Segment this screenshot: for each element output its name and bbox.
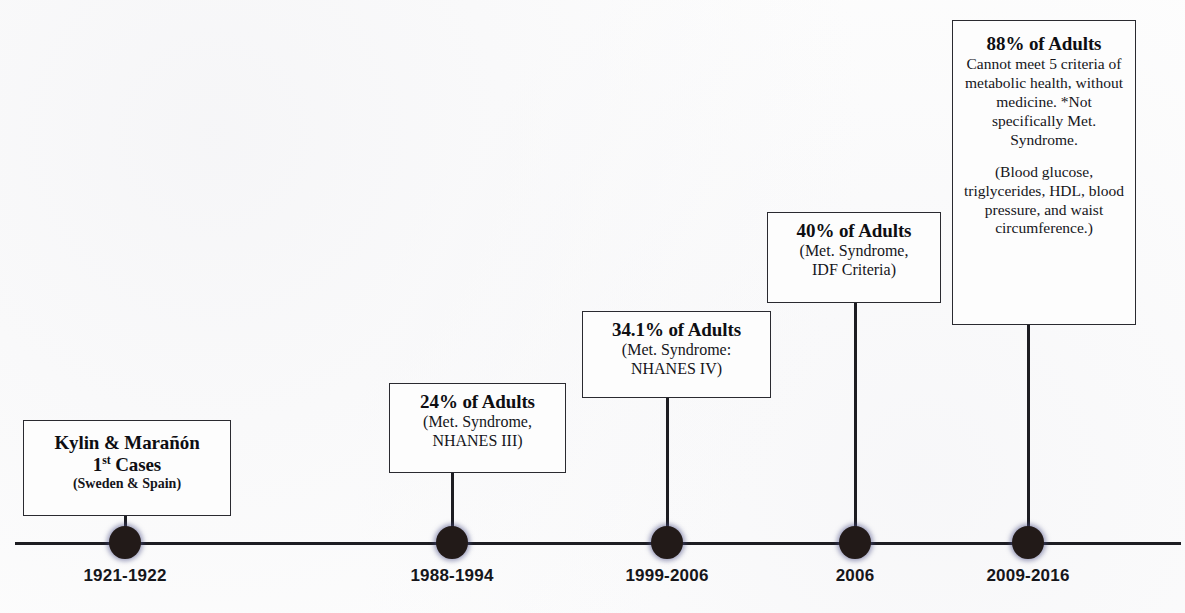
event-4-sub-line2: IDF Criteria) [774, 261, 934, 280]
event-3-sub-line1: (Met. Syndrome: [589, 341, 764, 360]
timeline-figure: 1921-1922 1988-1994 1999-2006 2006 2009-… [0, 0, 1185, 613]
event-1-ordinal-number: 1 [93, 454, 102, 475]
event-1-ordinal-suffix: st [102, 454, 110, 467]
event-5-spacer [959, 150, 1129, 163]
timeline-node-event-4[interactable] [839, 526, 871, 559]
year-label-event-5: 2009-2016 [986, 566, 1069, 586]
timeline-axis [15, 542, 1181, 545]
event-1-headline: Kylin & Marañón [30, 432, 224, 454]
stem-event-4 [854, 303, 857, 543]
event-5-headline: 88% of Adults [959, 33, 1129, 55]
event-2-sub-line2: NHANES III) [396, 432, 559, 451]
event-1-cases-word: Cases [111, 454, 162, 475]
event-2-headline: 24% of Adults [396, 391, 559, 413]
event-3-sub-line2: NHANES IV) [589, 360, 764, 379]
year-label-event-1: 1921-1922 [83, 566, 166, 586]
year-label-event-4: 2006 [836, 566, 875, 586]
timeline-node-event-1[interactable] [109, 526, 141, 559]
event-5-body-2: (Blood glucose, triglycerides, HDL, bloo… [959, 163, 1129, 239]
event-2-sub-line1: (Met. Syndrome, [396, 413, 559, 432]
event-5-body: Cannot meet 5 criteria of metabolic heal… [959, 55, 1129, 150]
event-4-sub-line1: (Met. Syndrome, [774, 242, 934, 261]
timeline-node-event-5[interactable] [1012, 526, 1044, 559]
timeline-node-event-2[interactable] [436, 526, 468, 559]
event-1-sub: (Sweden & Spain) [30, 476, 224, 492]
event-box-2006[interactable]: 40% of Adults (Met. Syndrome, IDF Criter… [767, 212, 941, 303]
event-box-1921-1922[interactable]: Kylin & Marañón 1st Cases (Sweden & Spai… [23, 420, 231, 516]
year-label-event-2: 1988-1994 [410, 566, 493, 586]
event-3-headline: 34.1% of Adults [589, 319, 764, 341]
timeline-node-event-3[interactable] [651, 526, 683, 559]
event-1-headline-line2: 1st Cases [30, 454, 224, 476]
event-box-1988-1994[interactable]: 24% of Adults (Met. Syndrome, NHANES III… [389, 383, 566, 473]
stem-event-5 [1027, 325, 1030, 543]
stem-event-3 [666, 398, 669, 543]
event-box-1999-2006[interactable]: 34.1% of Adults (Met. Syndrome: NHANES I… [582, 311, 771, 398]
year-label-event-3: 1999-2006 [625, 566, 708, 586]
event-box-2009-2016[interactable]: 88% of Adults Cannot meet 5 criteria of … [952, 20, 1136, 325]
event-4-headline: 40% of Adults [774, 220, 934, 242]
